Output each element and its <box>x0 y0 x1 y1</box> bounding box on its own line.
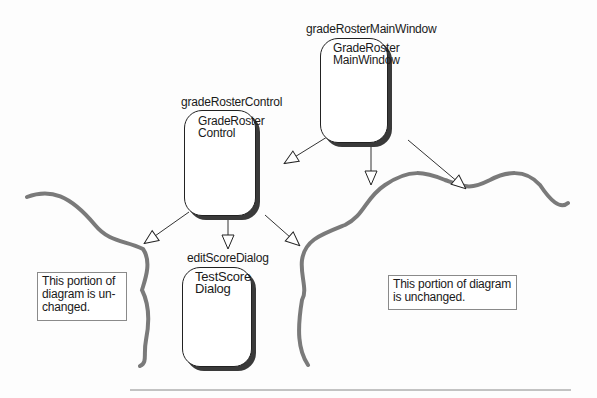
right-boundary-curve <box>299 173 568 365</box>
control-class-name: GradeRoster Control <box>198 115 265 139</box>
diagram-canvas <box>0 0 597 398</box>
main-window-class-name: GradeRoster MainWindow <box>333 42 400 66</box>
note-line: is unchanged. <box>393 291 512 304</box>
control-object-box[interactable]: GradeRoster Control <box>184 110 256 216</box>
left-unchanged-note: This portion of diagram is un- changed. <box>37 272 127 321</box>
arrow-main-right <box>408 140 465 188</box>
arrow-control-right <box>265 215 299 245</box>
main-window-instance-label: gradeRosterMainWindow <box>306 22 437 36</box>
main-window-object-box[interactable]: GradeRoster MainWindow <box>320 38 388 143</box>
arrow-control-left <box>145 212 189 243</box>
class-name-line2: MainWindow <box>333 54 400 66</box>
dialog-object-box[interactable]: TestScore Dialog <box>182 267 252 367</box>
control-instance-label: gradeRosterControl <box>181 95 282 109</box>
arrow-main-to-control <box>285 137 327 163</box>
dialog-instance-label: editScoreDialog <box>187 251 269 265</box>
class-name-line2: Control <box>198 127 265 139</box>
right-unchanged-note: This portion of diagram is unchanged. <box>388 275 517 310</box>
dialog-class-name: TestScore Dialog <box>195 271 251 295</box>
class-name-line2: Dialog <box>195 283 251 295</box>
note-line: changed. <box>42 301 122 314</box>
